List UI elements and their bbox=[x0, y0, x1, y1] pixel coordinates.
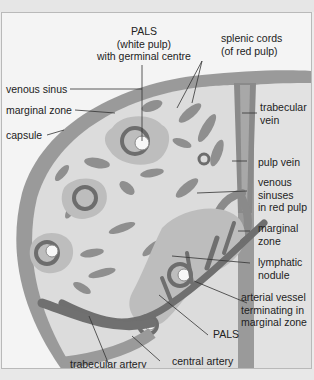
label-line: marginal bbox=[258, 222, 298, 235]
label-line: (of red pulp) bbox=[221, 45, 282, 58]
label-line: (white pulp) bbox=[97, 38, 191, 51]
label-central-artery: central artery bbox=[172, 355, 233, 368]
label-arterial-vessel: arterial vessel terminating in marginal … bbox=[241, 291, 307, 329]
label-line: splenic cords bbox=[221, 32, 282, 45]
label-line: lymphatic bbox=[258, 256, 302, 269]
bottom-border-strip bbox=[0, 369, 314, 380]
label-line: in red pulp bbox=[258, 201, 307, 214]
label-splenic-cords: splenic cords (of red pulp) bbox=[221, 32, 282, 57]
label-line: PALS bbox=[97, 25, 191, 38]
top-border-strip bbox=[0, 0, 314, 12]
label-line: terminating in bbox=[241, 304, 307, 317]
label-trabecular-artery: trabecular artery bbox=[70, 358, 146, 369]
label-line: arterial vessel bbox=[241, 291, 307, 304]
label-line: trabecular bbox=[260, 101, 307, 114]
label-venous-sinus: venous sinus bbox=[6, 83, 67, 96]
label-line: with germinal centre bbox=[97, 50, 191, 63]
label-venous-sinuses-red-pulp: venous sinuses in red pulp bbox=[258, 176, 307, 214]
label-pulp-vein: pulp vein bbox=[258, 156, 300, 169]
label-capsule: capsule bbox=[6, 129, 42, 142]
label-line: marginal zone bbox=[241, 316, 307, 329]
label-trabecular-vein: trabecular vein bbox=[260, 101, 307, 126]
label-marginal-zone-top: marginal zone bbox=[6, 104, 72, 117]
label-line: sinuses bbox=[258, 189, 307, 202]
label-pals-white-pulp: PALS (white pulp) with germinal centre bbox=[97, 25, 191, 63]
label-line: vein bbox=[260, 114, 307, 127]
diagram-frame: PALS (white pulp) with germinal centre s… bbox=[1, 12, 312, 369]
label-lymphatic-nodule: lymphatic nodule bbox=[258, 256, 302, 281]
label-line: venous bbox=[258, 176, 307, 189]
label-pals: PALS bbox=[213, 328, 239, 341]
label-marginal-zone-right: marginal zone bbox=[258, 222, 298, 247]
label-line: zone bbox=[258, 235, 298, 248]
label-line: nodule bbox=[258, 269, 302, 282]
